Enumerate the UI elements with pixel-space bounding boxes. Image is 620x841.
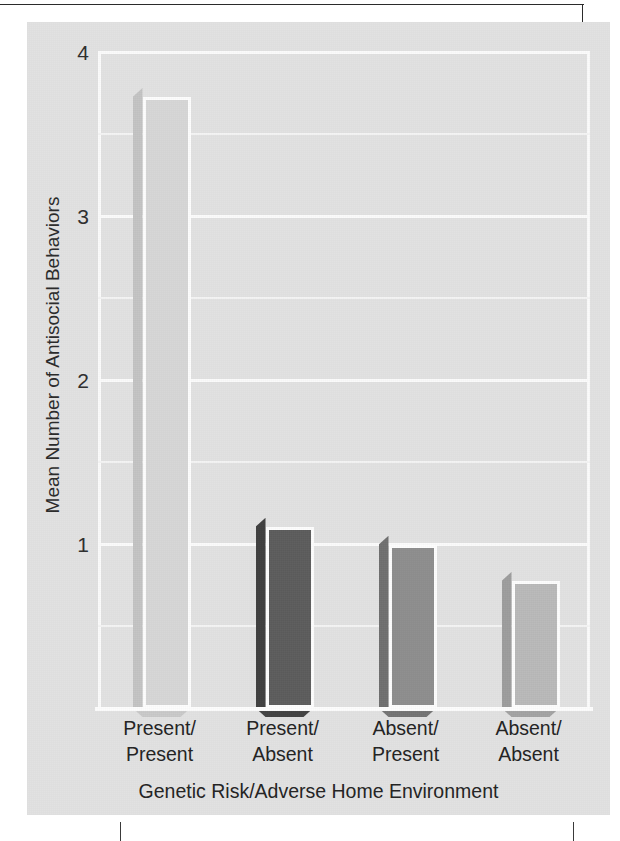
bar-front-face	[512, 581, 560, 708]
page-rule-top	[0, 4, 584, 5]
y-axis-tick-labels: 4321	[41, 22, 89, 815]
x-tick-label-line2: Absent	[221, 742, 344, 768]
x-tick-label: Present/Absent	[221, 716, 344, 768]
x-tick-label-line1: Present/	[221, 716, 344, 742]
x-axis-baseline	[95, 707, 593, 711]
y-tick-label: 1	[49, 534, 89, 555]
x-tick-label-line1: Present/	[98, 716, 221, 742]
bar-fill	[515, 584, 557, 705]
bar-chart-figure: Mean Number of Antisocial Behaviors 4321…	[27, 22, 610, 815]
bar[interactable]	[133, 88, 191, 708]
plot-area	[98, 52, 590, 708]
bar-fill	[269, 530, 311, 705]
bar-3d-body	[379, 536, 437, 708]
x-tick-label: Present/Present	[98, 716, 221, 768]
bar-front-face	[266, 527, 314, 708]
x-axis-tick-labels: Present/PresentPresent/AbsentAbsent/Pres…	[98, 716, 590, 778]
x-tick-label-line2: Present	[344, 742, 467, 768]
x-axis-title: Genetic Risk/Adverse Home Environment	[27, 780, 610, 803]
x-tick-label: Absent/Present	[344, 716, 467, 768]
bar-front-face	[389, 545, 437, 708]
x-tick-label-line1: Absent/	[467, 716, 590, 742]
page-tick-left	[120, 822, 121, 841]
y-tick-label: 2	[49, 370, 89, 391]
x-tick-label: Absent/Absent	[467, 716, 590, 768]
page-tick-right	[573, 822, 574, 841]
x-tick-label-line2: Present	[98, 742, 221, 768]
x-tick-label-line2: Absent	[467, 742, 590, 768]
y-tick-label: 3	[49, 206, 89, 227]
bar[interactable]	[502, 572, 560, 708]
bar-3d-body	[502, 572, 560, 708]
bar-fill	[392, 548, 434, 705]
bar-front-face	[143, 97, 191, 708]
x-tick-label-line1: Absent/	[344, 716, 467, 742]
gridline-major	[98, 51, 590, 54]
y-tick-label: 4	[49, 42, 89, 63]
bar[interactable]	[256, 518, 314, 708]
bar-side-face	[133, 88, 143, 708]
bar-side-face	[379, 536, 389, 708]
bar-3d-body	[256, 518, 314, 708]
bar-3d-body	[133, 88, 191, 708]
bar[interactable]	[379, 536, 437, 708]
bar-side-face	[256, 518, 266, 708]
bar-fill	[146, 100, 188, 705]
bar-side-face	[502, 572, 512, 708]
